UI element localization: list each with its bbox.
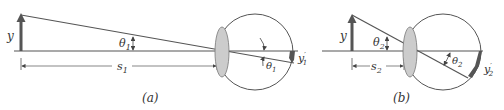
angular-size-diagram: y θ1 s1 θ1 y′1 (a (0, 0, 504, 110)
panel-b: y θ2 s2 θ2 y′2 (b) (322, 14, 494, 105)
caption-a: (a) (142, 91, 159, 105)
lens-a (215, 27, 229, 77)
lens-b (403, 27, 417, 77)
image-label-b: y′2 (483, 62, 494, 78)
object-arrow-b (348, 14, 357, 51)
panel-a: y θ1 s1 θ1 y′1 (a (6, 13, 307, 105)
inner-angle-label-a: θ1 (266, 60, 277, 74)
chief-ray-a (21, 15, 294, 63)
distance-label-a: s1 (117, 60, 128, 75)
retinal-image-b (468, 51, 482, 78)
caption-b: (b) (393, 91, 410, 105)
angle-label-b: θ2 (373, 36, 385, 51)
inner-angle-arc-lower-a (263, 57, 264, 66)
image-label-a: y′1 (297, 51, 307, 67)
inner-angle-arc-b (444, 53, 450, 65)
distance-label-b: s2 (371, 60, 382, 75)
inner-angle-arc-upper-a (260, 38, 264, 50)
retinal-image-a (289, 51, 295, 63)
inner-angle-label-b: θ2 (452, 55, 463, 69)
angle-label-a: θ1 (119, 37, 131, 52)
object-arrow-a (17, 13, 26, 51)
object-label-b: y (339, 29, 347, 43)
object-label-a: y (6, 29, 14, 43)
